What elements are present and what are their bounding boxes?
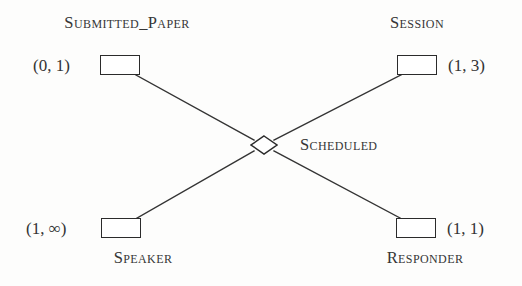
entity-box-session[interactable] — [397, 55, 437, 75]
er-diagram: Submitted_Paper Session Speaker Responde… — [0, 0, 522, 286]
relationship-diamond-scheduled[interactable] — [250, 135, 278, 155]
entity-label-responder: Responder — [387, 250, 464, 267]
entity-label-submitted-paper: Submitted_Paper — [64, 15, 189, 32]
relationship-label-scheduled: Scheduled — [300, 137, 377, 154]
entity-box-speaker[interactable] — [101, 218, 141, 238]
cardinality-responder: (1, 1) — [447, 220, 484, 237]
entity-box-submitted-paper[interactable] — [100, 55, 140, 75]
entity-label-speaker: Speaker — [114, 250, 173, 267]
edge-session-to-scheduled — [274, 75, 401, 140]
edge-speaker-to-scheduled — [137, 151, 254, 218]
cardinality-session: (1, 3) — [448, 57, 485, 74]
entity-label-session: Session — [390, 15, 444, 32]
entity-box-responder[interactable] — [396, 218, 436, 238]
edge-submitted-paper-to-scheduled — [136, 75, 254, 140]
edge-responder-to-scheduled — [274, 151, 400, 218]
cardinality-speaker: (1, ∞) — [26, 220, 66, 237]
cardinality-submitted-paper: (0, 1) — [33, 57, 70, 74]
